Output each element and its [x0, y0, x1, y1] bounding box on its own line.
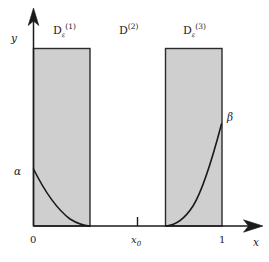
domain-label-d-epsilon-3: Dε(3) [183, 25, 206, 36]
domain-label-1-subscript: ε [62, 31, 66, 39]
domain-label-d-2: D(2) [119, 25, 138, 36]
domain-label-1-superscript: (1) [65, 22, 76, 31]
beta-curve-label: β [227, 112, 233, 123]
figure-container: y x Dε(1) D(2) Dε(3) α β 0 x0 1 [0, 0, 269, 262]
domain-label-3-subscript: ε [192, 31, 196, 39]
x-tick-label-x0-base: x [131, 234, 137, 245]
domain-label-3-base: D [183, 24, 192, 37]
domain-label-3-superscript: (3) [195, 22, 206, 31]
x-tick-label-x0-subscript: 0 [137, 240, 141, 248]
domain-decomposition-diagram [0, 0, 269, 262]
x-tick-label-x0: x0 [131, 235, 141, 245]
domain-label-1-base: D [53, 24, 62, 37]
y-axis-label: y [11, 33, 17, 44]
domain-label-d-epsilon-1: Dε(1) [53, 25, 76, 36]
domain-label-2-base: D [119, 24, 128, 37]
x-tick-label-1: 1 [219, 235, 225, 245]
domain-label-2-superscript: (2) [128, 22, 139, 31]
x-axis-label: x [253, 237, 259, 248]
shaded-region-d-epsilon-3 [166, 49, 223, 227]
x-tick-label-0: 0 [30, 235, 36, 245]
shaded-region-d-epsilon-1 [34, 49, 91, 227]
alpha-curve-label: α [14, 166, 21, 177]
